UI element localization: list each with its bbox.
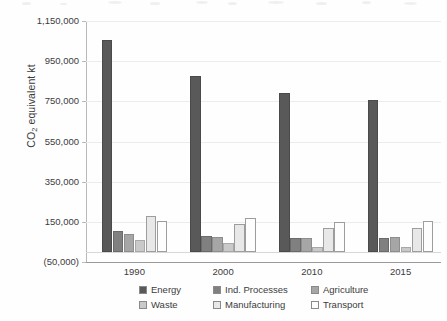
bar-energy-2010[interactable] (279, 93, 290, 252)
bar-waste-1990[interactable] (135, 240, 146, 252)
bar-waste-2010[interactable] (312, 247, 323, 252)
scan-artifact (196, 1, 208, 4)
legend-item-transport[interactable]: Transport (311, 299, 399, 310)
x-axis-line (86, 262, 441, 263)
scan-artifact (60, 3, 67, 5)
bar-transport-2015[interactable] (423, 221, 434, 252)
scan-artifact (150, 2, 160, 5)
y-axis-tick (82, 21, 86, 22)
legend-label: Transport (323, 299, 363, 310)
bar-waste-2015[interactable] (401, 247, 412, 252)
bar-group-1990 (102, 21, 168, 262)
chart-figure: CO2 equivalent kt 1,150,000950,000750,00… (0, 0, 447, 321)
x-axis-tick-label-2015: 2015 (371, 266, 431, 277)
scan-artifact (404, 2, 417, 5)
bar-manufacturing-2000[interactable] (234, 224, 245, 252)
y-axis-title-subscript: 2 (30, 128, 39, 132)
bar-manufacturing-2015[interactable] (412, 228, 423, 252)
bar-group-2010 (279, 21, 345, 262)
y-axis-tick (82, 262, 86, 263)
bar-energy-2000[interactable] (190, 76, 201, 252)
bar-ind-processes-2000[interactable] (201, 236, 212, 252)
bar-transport-2010[interactable] (334, 222, 345, 252)
scan-artifact (108, 1, 122, 4)
legend-item-manufacturing[interactable]: Manufacturing (213, 299, 311, 310)
y-axis-tick-label: 350,000 (0, 176, 79, 187)
y-axis-tick (82, 222, 86, 223)
legend-item-agriculture[interactable]: Agriculture (311, 284, 399, 295)
bar-ind-processes-2010[interactable] (290, 238, 301, 252)
legend-swatch-energy-icon (139, 286, 147, 294)
y-axis-tick-label: (50,000) (0, 256, 79, 267)
y-axis-tick-label: 550,000 (0, 136, 79, 147)
legend-swatch-transport-icon (311, 301, 319, 309)
y-axis-tick-label: 150,000 (0, 216, 79, 227)
bar-transport-1990[interactable] (157, 221, 168, 252)
scan-artifact (316, 2, 327, 5)
plot-area (86, 21, 441, 262)
x-axis-tick-label-2000: 2000 (193, 266, 253, 277)
legend-label: Ind. Processes (225, 284, 288, 295)
scan-artifact (268, 1, 284, 4)
y-axis-tick-label: 750,000 (0, 95, 79, 106)
scan-artifact (22, 2, 31, 5)
legend-swatch-agriculture-icon (311, 286, 319, 294)
legend-item-waste[interactable]: Waste (139, 299, 213, 310)
x-axis-tick-label-2010: 2010 (282, 266, 342, 277)
legend-label: Manufacturing (225, 299, 285, 310)
scan-artifact (228, 2, 237, 5)
y-axis-tick (82, 101, 86, 102)
bar-energy-2015[interactable] (368, 100, 379, 252)
bar-group-2015 (368, 21, 434, 262)
y-axis-tick (82, 61, 86, 62)
bar-agriculture-1990[interactable] (124, 234, 135, 252)
bar-waste-2000[interactable] (223, 243, 234, 252)
bar-manufacturing-2010[interactable] (323, 228, 334, 252)
bar-ind-processes-1990[interactable] (113, 231, 124, 252)
bar-agriculture-2010[interactable] (301, 238, 312, 252)
legend-label: Waste (151, 299, 178, 310)
chart-legend: EnergyInd. ProcessesAgricultureWasteManu… (139, 282, 399, 312)
bar-manufacturing-1990[interactable] (146, 216, 157, 252)
bar-agriculture-2000[interactable] (212, 237, 223, 252)
bar-group-2000 (190, 21, 256, 262)
y-axis-tick (82, 142, 86, 143)
bar-transport-2000[interactable] (245, 218, 256, 252)
legend-label: Energy (151, 284, 181, 295)
legend-swatch-manufacturing-icon (213, 301, 221, 309)
legend-item-energy[interactable]: Energy (139, 284, 213, 295)
y-axis-tick-label: 950,000 (0, 55, 79, 66)
bar-ind-processes-2015[interactable] (379, 238, 390, 252)
legend-label: Agriculture (323, 284, 368, 295)
x-axis-tick-label-1990: 1990 (104, 266, 164, 277)
bar-agriculture-2015[interactable] (390, 237, 401, 252)
scan-artifact (362, 1, 371, 4)
legend-item-ind-processes[interactable]: Ind. Processes (213, 284, 311, 295)
bar-energy-1990[interactable] (102, 40, 113, 252)
y-axis-tick (82, 182, 86, 183)
legend-swatch-ind-processes-icon (213, 286, 221, 294)
y-axis-tick-label: 1,150,000 (0, 15, 79, 26)
legend-swatch-waste-icon (139, 301, 147, 309)
